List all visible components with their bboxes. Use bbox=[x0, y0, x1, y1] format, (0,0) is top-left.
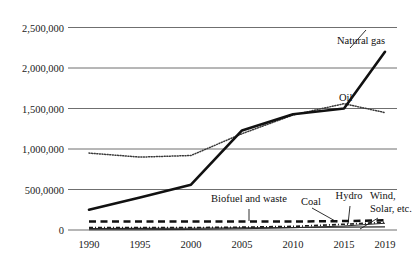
series-line-natural-gas bbox=[89, 52, 385, 210]
y-tick-500000: 500,0000 bbox=[25, 185, 64, 196]
x-tick-2015: 2015 bbox=[334, 239, 355, 250]
annotation-wind-solar-line1: Wind, bbox=[370, 190, 396, 201]
x-tick-2005: 2005 bbox=[232, 239, 253, 250]
x-tick-1995: 1995 bbox=[130, 239, 151, 250]
annotation-wind-solar-line2: Solar, etc. bbox=[370, 203, 412, 214]
annotation-biofuel-and-waste: Biofuel and waste bbox=[211, 193, 287, 204]
annotation-oil: Oil bbox=[339, 92, 353, 103]
x-tick-2010: 2010 bbox=[283, 239, 304, 250]
x-tick-2019: 2019 bbox=[375, 239, 396, 250]
annotation-labels: Natural gas Oil Biofuel and waste Coal H… bbox=[211, 35, 412, 214]
y-axis-tick-labels: 2,500,000 2,000,000 1,500,000 1,000,000 … bbox=[22, 23, 64, 237]
y-tick-2000000: 2,000,000 bbox=[22, 63, 64, 74]
x-tick-2000: 2000 bbox=[181, 239, 202, 250]
series-line-biofuel-and-waste bbox=[89, 220, 385, 221]
chart-svg: 2,500,000 2,000,000 1,500,000 1,000,000 … bbox=[0, 0, 413, 267]
x-axis-tick-labels: 1990 1995 2000 2005 2010 2015 2019 bbox=[79, 239, 396, 250]
annotation-coal: Coal bbox=[301, 196, 321, 207]
line-chart-figure: 2,500,000 2,000,000 1,500,000 1,000,000 … bbox=[0, 0, 413, 267]
y-tick-1000000: 1,000,000 bbox=[22, 144, 64, 155]
annotation-hydro: Hydro bbox=[336, 190, 363, 201]
leader-coal bbox=[312, 208, 337, 222]
annotation-natural-gas: Natural gas bbox=[337, 35, 385, 46]
y-tick-0: 0 bbox=[59, 225, 64, 236]
x-tick-1990: 1990 bbox=[79, 239, 100, 250]
y-tick-2500000: 2,500,000 bbox=[22, 23, 64, 34]
y-tick-1500000: 1,500,000 bbox=[22, 104, 64, 115]
